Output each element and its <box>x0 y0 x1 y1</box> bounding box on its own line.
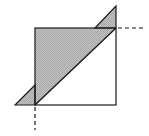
shaded-bottom-triangle <box>15 85 35 105</box>
diagram-canvas <box>0 0 149 136</box>
shaded-top-triangle <box>95 6 116 28</box>
